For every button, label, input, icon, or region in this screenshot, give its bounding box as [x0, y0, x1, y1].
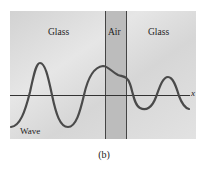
wave-label: Wave	[20, 127, 40, 136]
region-label-glass-left: Glass	[48, 28, 69, 38]
region-label-air: Air	[108, 28, 121, 38]
wave-diagram: Glass Air Glass Wave x (b)	[0, 0, 208, 169]
region-label-glass-right: Glass	[148, 28, 169, 38]
diagram-canvas	[0, 0, 208, 169]
figure-caption: (b)	[0, 149, 208, 160]
axis-label-x: x	[191, 89, 195, 98]
